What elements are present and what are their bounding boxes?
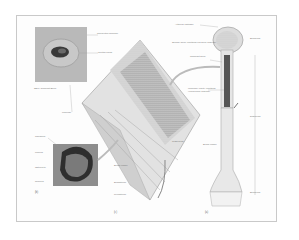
label-articular-cartilage: Articular cartilage <box>175 24 193 27</box>
bone-section-3d <box>82 40 220 200</box>
micrograph-compact-bone <box>35 27 87 82</box>
long-bone-femur <box>210 27 255 206</box>
panel-tag-a: (a) <box>205 211 208 214</box>
label-concentric-lamellae: Concentric lamellae <box>97 33 118 36</box>
label-trabeculae: Trabeculae <box>172 141 184 144</box>
label-nucleus: Nucleus <box>35 181 44 184</box>
label-central-canal: Central canal <box>98 52 112 55</box>
label-diaphysis: Diaphysis <box>250 116 260 119</box>
panel-tag-b: (b) <box>35 191 38 194</box>
label-epiphysis-bottom: Epiphysis <box>250 192 260 195</box>
label-compact-bone: Compact bone <box>190 56 206 59</box>
panel-tag-c: (c) <box>114 211 117 214</box>
label-spongy-bone: Spongy bone (contains red bone marrow) <box>172 42 220 45</box>
micrograph-osteocyte <box>53 144 98 186</box>
label-medullary-cavity: Medullary cavity (contains yellow bone m… <box>188 88 222 94</box>
label-blood-vessel-bone: Blood vessel <box>203 144 217 147</box>
label-endosteum: Endosteum <box>114 182 126 185</box>
label-micrograph-caption: SEM: Compact Bone <box>34 88 56 91</box>
label-osteocyte: Osteocyte <box>35 167 46 170</box>
label-lacuna: Lacuna <box>35 152 43 155</box>
label-blood-vessel-section: Blood vessel <box>114 165 128 168</box>
label-epiphysis-top: Epiphysis <box>250 38 260 41</box>
label-canaliculi: Canaliculi <box>35 136 45 139</box>
label-lacunae: Lacunae <box>62 112 71 115</box>
label-periosteum: Periosteum <box>114 194 126 197</box>
